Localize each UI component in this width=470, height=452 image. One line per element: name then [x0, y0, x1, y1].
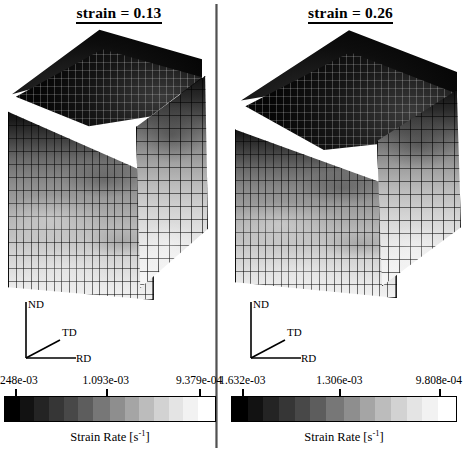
colorbar-right-tick-label-0: 1.632e-03 — [219, 374, 265, 386]
colorbar-right-caption: Strain Rate [s-1] — [231, 428, 457, 445]
colorbar-right-tick-2 — [439, 389, 441, 396]
colorbar-right: 1.632e-03 1.306e-03 9.808e-04 Strain Rat… — [231, 374, 457, 445]
axis-label-nd: ND — [253, 298, 269, 310]
panel-left: strain = 0.13 ND TD RD — [0, 0, 222, 452]
axis-label-td: TD — [62, 326, 77, 338]
axis-label-nd: ND — [28, 298, 44, 310]
colorbar-left-tick-2 — [199, 389, 201, 396]
colorbar-left-gradient — [4, 396, 216, 422]
panel-right: strain = 0.26 ND TD RD 1.632e-03 — [231, 0, 470, 452]
fem-block-right — [235, 28, 461, 300]
colorbar-left: 1.248e-03 1.093e-03 9.379e-04 Strain Rat… — [4, 374, 216, 445]
colorbar-right-caption-tail: ] — [379, 430, 383, 444]
colorbar-left-caption-text: Strain Rate [s — [70, 430, 138, 444]
colorbar-left-tick-1 — [106, 389, 108, 396]
axis-label-rd: RD — [76, 352, 91, 364]
panel-left-title-text: strain = 0.13 — [76, 4, 161, 24]
colorbar-right-tick-0 — [242, 389, 244, 396]
colorbar-left-tick-label-1: 1.093e-03 — [83, 374, 129, 386]
colorbar-right-labels: 1.632e-03 1.306e-03 9.808e-04 — [231, 374, 457, 389]
colorbar-right-tick-label-2: 9.808e-04 — [416, 374, 462, 386]
axis-triad-left: ND TD RD — [6, 296, 116, 374]
colorbar-right-ticks — [231, 389, 457, 396]
axis-triad-right-lines — [231, 296, 341, 374]
axis-triad-left-lines — [6, 296, 116, 374]
panel-right-title-text: strain = 0.26 — [308, 4, 393, 24]
colorbar-left-tick-label-0: 1.248e-03 — [0, 374, 38, 386]
colorbar-left-tick-0 — [15, 389, 17, 396]
specimen-left — [8, 28, 214, 300]
axis-label-td: TD — [287, 326, 302, 338]
colorbar-right-tick-label-1: 1.306e-03 — [316, 374, 362, 386]
panel-left-title: strain = 0.13 — [0, 4, 230, 22]
axis-label-rd: RD — [301, 352, 316, 364]
colorbar-right-caption-text: Strain Rate [s — [304, 430, 372, 444]
colorbar-right-tick-1 — [339, 389, 341, 396]
colorbar-left-labels: 1.248e-03 1.093e-03 9.379e-04 — [4, 374, 216, 389]
panel-right-title: strain = 0.26 — [231, 4, 470, 22]
colorbar-right-gradient — [231, 396, 457, 422]
colorbar-left-ticks — [4, 389, 216, 396]
specimen-right — [235, 28, 461, 300]
colorbar-left-tick-label-2: 9.379e-04 — [176, 374, 222, 386]
colorbar-left-caption-tail: ] — [145, 430, 149, 444]
colorbar-left-caption: Strain Rate [s-1] — [4, 428, 216, 445]
axis-triad-right: ND TD RD — [231, 296, 341, 374]
figure-root: strain = 0.13 ND TD RD — [0, 0, 470, 452]
fem-block-left — [8, 28, 214, 300]
